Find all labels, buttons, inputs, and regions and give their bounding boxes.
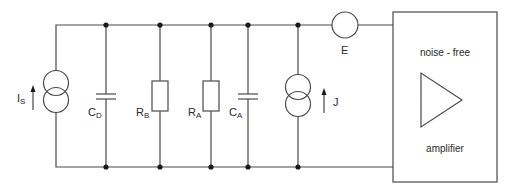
circuit-diagram: IS CD RB RA CA J E noise - free amplifie… [0, 0, 512, 191]
amplifier-subtitle: amplifier [393, 143, 497, 154]
label-is: IS [17, 93, 25, 106]
capacitor-ca [238, 25, 258, 167]
label-ra: RA [188, 107, 201, 120]
circuit-schematic [0, 0, 512, 191]
label-ca: CA [229, 107, 242, 120]
current-source-is [44, 71, 69, 113]
amplifier-title: noise - free [393, 47, 497, 58]
label-cd: CD [88, 107, 102, 120]
junction-nodes [103, 22, 300, 169]
arrow-up-icon [31, 85, 36, 110]
label-rb: RB [136, 107, 149, 120]
capacitor-cd [96, 25, 116, 167]
noise-current-source-j [286, 25, 311, 167]
amplifier-triangle-icon [421, 73, 462, 127]
amplifier-block [393, 12, 497, 182]
resistor-rb [152, 25, 168, 167]
label-e: E [341, 45, 348, 56]
resistor-ra [203, 25, 219, 167]
arrow-up-icon [322, 88, 327, 113]
label-j: J [333, 97, 339, 108]
noise-voltage-source-e [332, 12, 358, 38]
